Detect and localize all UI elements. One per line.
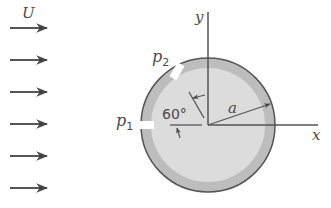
flow-over-cylinder-diagram: U y x a 60° p2 p1 bbox=[0, 0, 331, 208]
pressure-tap-1-label: p1 bbox=[116, 111, 133, 133]
angle-label: 60° bbox=[162, 106, 187, 122]
y-axis-label: y bbox=[194, 8, 204, 26]
x-axis-label: x bbox=[312, 126, 321, 144]
pressure-tap-2-label: p2 bbox=[152, 47, 169, 69]
flow-velocity-label: U bbox=[22, 4, 36, 22]
uniform-flow-arrows bbox=[10, 28, 47, 188]
pressure-tap-1-gap bbox=[138, 121, 154, 129]
radius-label: a bbox=[228, 99, 237, 117]
